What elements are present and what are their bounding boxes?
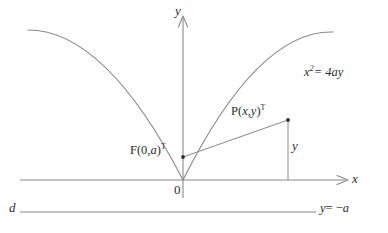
focal-radius-segment — [183, 120, 288, 157]
y-axis-label: y — [175, 4, 181, 17]
directrix-name-label: d — [9, 201, 16, 214]
curve-equation-label: x2= 4ay — [304, 66, 343, 79]
directrix-equation-suffix: = − — [326, 201, 343, 215]
focus-transpose: T — [161, 142, 166, 151]
focus-prefix: F(0, — [130, 143, 151, 157]
focus-label: F(0,a)T — [130, 144, 166, 157]
parabola-figure: y x 0 x2= 4ay P(x,y)T F(0,a)T y d y= −a — [0, 0, 388, 233]
point-p-prefix: P( — [231, 104, 242, 118]
directrix-equation-param: a — [343, 201, 349, 215]
curve-equation-suffix: = 4ay — [314, 65, 344, 79]
directrix-equation-label: y= −a — [320, 202, 349, 215]
origin-label: 0 — [174, 183, 181, 196]
vertical-drop-label: y — [292, 139, 298, 152]
figure-canvas — [0, 0, 388, 233]
point-p-label: P(x,y)T — [231, 105, 265, 118]
point-p-transpose: T — [261, 103, 266, 112]
point-p-marker — [286, 118, 290, 122]
parabola-curve — [28, 30, 333, 180]
x-axis-label: x — [352, 172, 358, 185]
focus-point-marker — [181, 155, 185, 159]
y-axis — [178, 16, 187, 198]
